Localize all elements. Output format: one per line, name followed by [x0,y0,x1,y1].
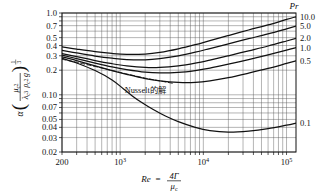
svg-text:3: 3 [16,60,22,63]
pr-legend-title: Pr [289,1,299,11]
y-tick-label: 0.02 [42,147,57,157]
svg-text:g: g [21,73,30,77]
svg-text:4Γ: 4Γ [169,171,179,181]
svg-text:(: ( [8,104,30,110]
svg-text:): ) [8,66,30,72]
y-tick-label: 0.03 [42,133,57,143]
svg-text:=: = [155,174,160,184]
chart-svg: 1.00.70.50.40.30.20.100.070.050.040.030.… [0,0,325,194]
x-tick-label: 200 [56,157,69,167]
y-tick-label: 0.04 [42,122,58,132]
y-tick-label: 1.0 [46,8,57,18]
nusselt-annotation: Nusselt的解 [125,85,167,95]
y-tick-label: 0.4 [46,41,57,51]
pr-value-label: 0.5 [300,56,311,66]
y-tick-label: 0.3 [46,51,57,61]
svg-text:Re: Re [140,174,151,184]
pr-value-label: 5.0 [300,21,311,31]
y-tick-label: 0.2 [46,65,57,75]
pr-value-label: 0.1 [300,118,311,128]
y-tick-label: 0.10 [42,90,57,100]
pr-value-label: 1.0 [300,43,311,53]
y-tick-label: 0.7 [46,21,57,31]
y-tick-label: 0.07 [42,102,58,112]
svg-text:1: 1 [10,60,16,63]
chart-figure: 1.00.70.50.40.30.20.100.070.050.040.030.… [0,0,325,194]
